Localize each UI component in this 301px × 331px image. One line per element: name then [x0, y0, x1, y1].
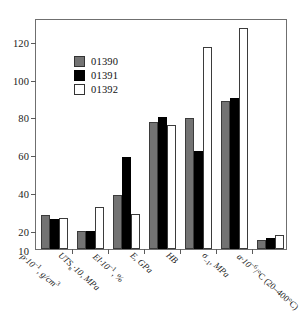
- bar: [275, 235, 284, 249]
- bar: [149, 122, 158, 249]
- bar: [185, 118, 194, 249]
- x-axis-label-elongation: El·10–1, %: [91, 250, 127, 284]
- legend-item: 01390: [74, 56, 118, 67]
- bar: [59, 218, 68, 249]
- y-axis-tick-label: 80: [18, 113, 29, 124]
- y-axis-tick-label: 120: [13, 37, 29, 48]
- bar: [50, 219, 59, 249]
- bar: [158, 117, 167, 249]
- bar: [113, 195, 122, 249]
- bar-chart: 2040608010012010 ρ·10–1, g/cm3UTSв·10, M…: [0, 0, 301, 331]
- bar-group: [256, 20, 285, 249]
- y-axis-tick-label: 20: [18, 227, 29, 238]
- bar: [239, 28, 248, 249]
- bar: [194, 151, 203, 249]
- legend-label: 01391: [91, 70, 118, 81]
- legend-swatch-white-open-square: [74, 84, 85, 95]
- y-axis-tick-label: 40: [18, 189, 29, 200]
- y-axis-tick-label: 100: [13, 75, 29, 86]
- x-axis-label-fatigue-limit: σ–1, MPa: [199, 250, 231, 281]
- x-axis-label-youngs-modulus: E, GPa: [128, 250, 154, 275]
- x-axis-label-brinell-hardness: HB: [164, 250, 180, 265]
- bar: [41, 215, 50, 249]
- bar: [86, 231, 95, 249]
- bar: [230, 98, 239, 249]
- x-axis-label-thermal-expansion: α·10–6/°C (20–400°C): [235, 250, 301, 312]
- bar: [167, 125, 176, 249]
- bar-group: [40, 20, 69, 249]
- legend-label: 01392: [91, 84, 118, 95]
- bar-group: [148, 20, 177, 249]
- x-axis-labels: ρ·10–1, g/cm3UTSв·10, MPaEl·10–1, %E, GP…: [35, 250, 287, 331]
- y-axis-tick-label: 60: [18, 151, 29, 162]
- bar: [77, 231, 86, 249]
- legend-swatch-black-filled-square: [74, 70, 85, 81]
- bar: [122, 157, 131, 249]
- bar: [266, 238, 275, 249]
- bar-group: [112, 20, 141, 249]
- bar: [221, 101, 230, 249]
- legend: 013900139101392: [74, 56, 118, 95]
- legend-item: 01391: [74, 70, 118, 81]
- plot-area: 2040608010012010: [35, 19, 287, 250]
- legend-item: 01392: [74, 84, 118, 95]
- bar: [131, 214, 140, 249]
- bar-group: [220, 20, 249, 249]
- bar-group: [184, 20, 213, 249]
- legend-swatch-gray-filled-square: [74, 56, 85, 67]
- bar-group: [76, 20, 105, 249]
- bar: [95, 207, 104, 249]
- bars-layer: [36, 20, 286, 249]
- legend-label: 01390: [91, 56, 118, 67]
- bar: [203, 47, 212, 249]
- bar: [257, 240, 266, 249]
